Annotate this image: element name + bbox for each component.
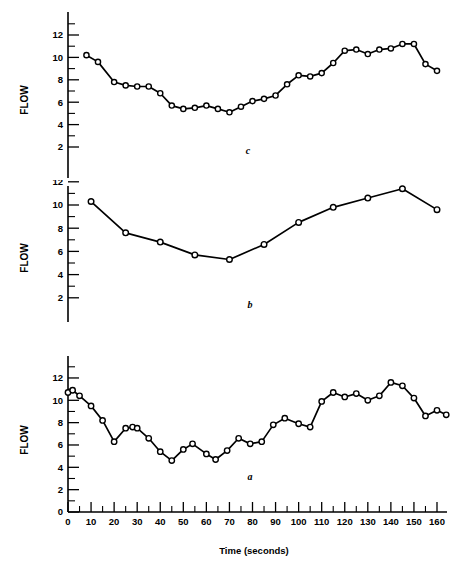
chart-a-xtick-labels: 0102030405060708090100110120130140150160 — [65, 516, 445, 527]
chart-a-point — [282, 415, 287, 420]
chart-a-point — [204, 451, 209, 456]
chart-c-point — [411, 41, 416, 46]
chart-b-point — [330, 205, 336, 211]
chart-a-xtick-label: 140 — [383, 516, 399, 527]
chart-a-yaxis — [68, 356, 79, 512]
chart-a-xtick-label: 130 — [360, 516, 376, 527]
chart-a-point — [88, 403, 93, 408]
chart-a-ylabel: FLOW — [19, 425, 30, 455]
chart-c-ytick-label: 12 — [52, 29, 63, 40]
chart-a-xtick-label: 70 — [224, 516, 235, 527]
chart-panel-c: 24681012 FLOW c — [0, 0, 467, 186]
chart-c-ytick-labels: 24681012 — [52, 29, 63, 152]
chart-a-point — [247, 441, 252, 446]
chart-c-data-markers — [84, 41, 440, 115]
chart-a-point — [271, 422, 276, 427]
chart-a-ytick-label: 2 — [58, 484, 63, 495]
chart-b-point — [123, 230, 129, 236]
chart-b-data-markers — [88, 186, 440, 262]
chart-a-svg: 024681012 010203040506070809010011012013… — [0, 352, 467, 569]
chart-a-point — [134, 426, 139, 431]
chart-b-ytick-labels: 24681012 — [52, 180, 63, 303]
chart-a-point — [434, 408, 439, 413]
chart-panel-a: 024681012 010203040506070809010011012013… — [0, 352, 467, 569]
chart-a-xtick-label: 80 — [247, 516, 258, 527]
chart-c-point — [342, 48, 347, 53]
chart-a-point — [77, 393, 82, 398]
chart-c-data-line — [86, 44, 437, 112]
chart-b-point — [434, 207, 440, 213]
chart-c-panel-letter: c — [246, 145, 251, 156]
figure-container: 24681012 FLOW c 24681012 FLOW b — [0, 0, 467, 569]
chart-c-point — [284, 82, 289, 87]
chart-b-point — [296, 220, 302, 226]
chart-c-point — [388, 46, 393, 51]
chart-a-point — [158, 449, 163, 454]
chart-a-data-markers — [65, 380, 449, 464]
chart-c-yaxis — [68, 12, 79, 178]
chart-a-point — [331, 390, 336, 395]
chart-a-ytick-label: 10 — [52, 395, 63, 406]
chart-c-ytick-marks — [68, 24, 79, 147]
chart-c-point — [423, 62, 428, 67]
chart-c-point — [273, 93, 278, 98]
chart-c-point — [331, 60, 336, 65]
chart-a-ytick-label: 12 — [52, 372, 63, 383]
chart-c-point — [169, 103, 174, 108]
chart-b-ytick-label: 6 — [58, 246, 63, 257]
chart-a-ytick-label: 4 — [58, 462, 64, 473]
chart-c-point — [227, 110, 232, 115]
chart-c-point — [135, 84, 140, 89]
chart-a-point — [213, 457, 218, 462]
chart-c-point — [146, 84, 151, 89]
chart-c-point — [192, 105, 197, 110]
chart-a-point — [111, 439, 116, 444]
chart-a-ytick-label: 6 — [58, 439, 63, 450]
chart-c-point — [95, 59, 100, 64]
chart-a-point — [259, 439, 264, 444]
chart-c-point — [238, 104, 243, 109]
chart-a-point — [190, 441, 195, 446]
chart-a-point — [169, 458, 174, 463]
chart-c-ylabel: FLOW — [19, 85, 30, 115]
chart-b-data-line — [91, 189, 437, 260]
chart-a-xtick-label: 10 — [86, 516, 97, 527]
chart-c-point — [215, 106, 220, 111]
chart-c-point — [123, 83, 128, 88]
chart-a-xtick-label: 0 — [65, 516, 70, 527]
chart-a-point — [319, 399, 324, 404]
chart-a-xtick-label: 100 — [291, 516, 307, 527]
chart-a-point — [236, 436, 241, 441]
chart-a-point — [296, 421, 301, 426]
chart-b-ylabel: FLOW — [19, 243, 30, 273]
chart-a-xtick-label: 40 — [155, 516, 166, 527]
chart-b-point — [261, 242, 267, 248]
chart-c-ytick-label: 4 — [58, 119, 64, 130]
chart-a-point — [342, 394, 347, 399]
chart-b-point — [157, 239, 163, 245]
chart-c-point — [204, 103, 209, 108]
chart-c-point — [434, 68, 439, 73]
chart-c-ytick-label: 6 — [58, 97, 63, 108]
chart-a-point — [224, 448, 229, 453]
chart-c-point — [181, 106, 186, 111]
chart-a-xtick-label: 90 — [270, 516, 281, 527]
chart-panel-b: 24681012 FLOW b — [0, 180, 467, 330]
chart-c-point — [261, 96, 266, 101]
chart-b-ytick-label: 2 — [58, 292, 63, 303]
chart-a-point — [70, 388, 75, 393]
chart-b-yaxis — [68, 180, 79, 322]
chart-b-ytick-label: 10 — [52, 199, 63, 210]
chart-a-ytick-labels: 024681012 — [52, 372, 63, 517]
chart-c-point — [112, 79, 117, 84]
chart-c-ytick-label: 10 — [52, 52, 63, 63]
chart-c-svg: 24681012 FLOW c — [0, 0, 467, 186]
chart-c-point — [377, 47, 382, 52]
chart-c-point — [84, 53, 89, 58]
chart-b-svg: 24681012 FLOW b — [0, 180, 467, 330]
chart-a-xtick-label: 110 — [314, 516, 329, 527]
chart-c-ytick-label: 2 — [58, 141, 63, 152]
chart-c-point — [158, 91, 163, 96]
chart-a-xlabel: Time (seconds) — [219, 545, 289, 556]
chart-b-ytick-label: 8 — [58, 223, 63, 234]
